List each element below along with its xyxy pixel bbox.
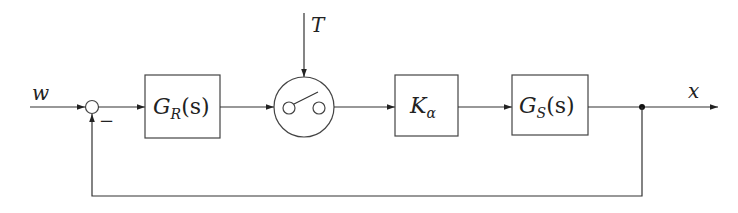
summing-junction: − — [86, 101, 115, 132]
output-label: x — [688, 79, 699, 103]
plant-block: GS(s) — [512, 75, 588, 135]
switch-contact-right — [313, 102, 325, 114]
controller-block: GR(s) — [145, 75, 220, 138]
summing-junction-circle — [86, 101, 99, 114]
input-label: w — [32, 81, 49, 105]
switch-contact-left — [283, 102, 295, 114]
trigger-label: T — [311, 13, 326, 37]
feedback-sign: − — [99, 110, 114, 131]
gain-block: Kα — [395, 75, 458, 136]
block-diagram: w − GR(s) T Kα G — [0, 0, 738, 213]
output-signal: x — [588, 79, 718, 110]
trigger-signal: T — [304, 13, 326, 77]
input-signal: w — [30, 81, 85, 107]
plant-label: GS(s) — [519, 93, 575, 121]
sampler-switch — [274, 77, 334, 137]
controller-label: GR(s) — [153, 94, 210, 122]
